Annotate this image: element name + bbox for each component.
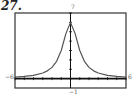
x-min-label: −6 bbox=[5, 74, 14, 80]
x-max-label: 6 bbox=[128, 74, 132, 80]
y-max-label: 7 bbox=[71, 4, 75, 10]
y-min-label: −1 bbox=[69, 89, 78, 95]
graph-plot bbox=[0, 0, 133, 97]
